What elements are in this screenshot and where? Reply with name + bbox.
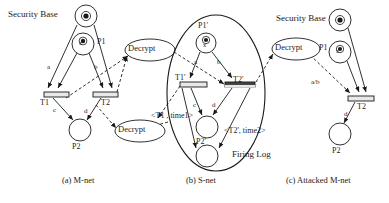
caption-c: (c) Attacked M-net	[286, 176, 351, 185]
t2-prime-label-b: T2'	[233, 76, 243, 84]
p1-label-a: P1	[97, 38, 105, 46]
arc-label-c-a: c	[53, 107, 56, 114]
arc-label-b-b: b	[217, 59, 221, 66]
arc-label-d-c: d	[344, 111, 348, 118]
arc-label-d-a: d	[84, 108, 88, 115]
security-base-label-a: Security Base	[8, 10, 58, 19]
t2-label-c: T2	[357, 103, 366, 111]
p1-inner-x-a: x	[79, 40, 82, 46]
p2-label-a: P2	[72, 143, 80, 151]
figure-petri-net-diagram: Security Base P1 x P2 T1 T2 a b c d Decr…	[0, 0, 389, 203]
arc-label-ab-c: a/b	[311, 79, 320, 86]
arc-label-a-b: a	[194, 59, 197, 66]
s-net-boundary-ellipse	[167, 15, 265, 171]
p2-label-c: P2	[332, 147, 340, 155]
p1-label-c: P1	[319, 44, 327, 52]
arc-label-c-b: c	[193, 102, 196, 109]
decrypt-label-c: Decrypt	[275, 43, 302, 52]
caption-a: (a) M-net	[62, 176, 94, 185]
p1-inner-x-c: x	[336, 48, 339, 54]
p2-prime-label-b: P2'	[196, 138, 206, 146]
caption-b: (b) S-net	[186, 176, 216, 185]
firing-log-label-b: Firing Log	[232, 150, 271, 159]
panel-c-transitions	[348, 96, 374, 101]
log-entry-2-b: <T2', time2>	[224, 127, 266, 135]
decrypt-label-bottom-a: Decrypt	[118, 125, 145, 134]
panel-b-transitions	[180, 82, 255, 88]
security-base-label-c: Security Base	[276, 14, 326, 23]
panel-a-transitions	[44, 92, 118, 97]
t2-label-a: T2	[101, 99, 110, 107]
arc-label-d-b: d	[212, 102, 216, 109]
t1-label-a: T1	[40, 99, 49, 107]
arc-label-a-a: a	[47, 64, 50, 71]
panel-a-places	[69, 5, 97, 141]
decrypt-label-top-a: Decrypt	[128, 44, 155, 53]
arc-label-b-a: b	[94, 64, 98, 71]
p1-prime-inner-x-b: x	[203, 42, 206, 48]
log-entry-1-b: <T1 , time1>	[151, 112, 193, 120]
p1-prime-label-b: P1'	[198, 22, 208, 30]
t1-prime-label-b: T1'	[175, 74, 185, 82]
panel-c-places	[329, 9, 351, 145]
